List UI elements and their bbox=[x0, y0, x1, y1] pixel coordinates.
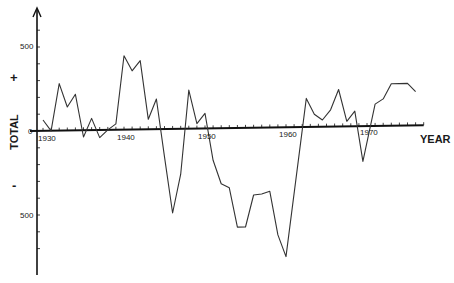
series-line-total bbox=[43, 56, 416, 257]
x-tick-label-1970: 1970 bbox=[360, 128, 378, 137]
y-tick-label-pos-500: 500 bbox=[20, 42, 33, 51]
y-positive-marker: + bbox=[10, 70, 18, 85]
x-tick-label-1930: 1930 bbox=[38, 134, 56, 143]
y-axis-title: TOTAL bbox=[8, 112, 20, 152]
y-tick-label-0: 0 bbox=[28, 127, 32, 136]
y-tick-label-neg-500: 500 bbox=[20, 211, 33, 220]
axes bbox=[30, 8, 424, 275]
x-axis-title: YEAR bbox=[420, 133, 451, 145]
x-tick-label-1950: 1950 bbox=[198, 132, 216, 141]
y-negative-marker: - bbox=[12, 178, 16, 193]
x-tick-label-1940: 1940 bbox=[117, 133, 135, 142]
x-tick-label-1960: 1960 bbox=[279, 130, 297, 139]
line-chart bbox=[0, 0, 454, 283]
